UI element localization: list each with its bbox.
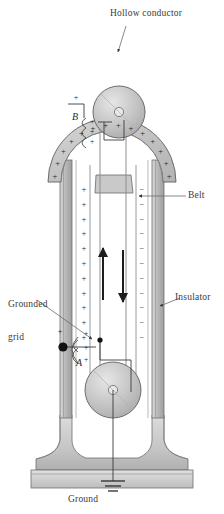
dome-plus: + [61,146,66,156]
belt-plus: + [82,243,87,253]
dome-plus: + [164,158,169,168]
dome-plus: + [167,171,172,181]
belt-minus: − [140,302,145,312]
insulating-column-right [152,160,164,418]
brush-a-plus: + [84,355,88,364]
brush-b-plus: + [90,127,94,136]
dome-plus: + [158,146,163,156]
belt-minus: − [140,258,145,268]
figure-canvas: +++++++++++++++++++++++++−−−−−−−−−−−++++… [0,0,224,514]
dome-plus: + [150,136,155,146]
label-brush-b: B [72,111,78,122]
brush-a-plus: + [84,329,88,338]
dome-plus: + [103,120,108,130]
belt-minus: − [140,288,145,298]
belt-minus: − [140,214,145,224]
label-brush-a: A [76,357,82,368]
brush-b-plus: + [90,117,94,126]
dome-plus: + [69,136,74,146]
dome-plus: + [79,128,84,138]
label-grounded-grid: Grounded grid [8,277,48,365]
belt-plus: + [82,228,87,238]
belt-plus: + [82,184,87,194]
belt-plus: + [82,317,87,327]
belt-minus: − [140,243,145,253]
leader-hollow-conductor [118,26,126,52]
belt-minus: − [140,317,145,327]
van-de-graaff-diagram: +++++++++++++++++++++++++−−−−−−−−−−−++++… [0,0,224,514]
belt-minus: − [140,332,145,342]
upper-pulley [93,86,145,138]
dome-plus: + [52,171,57,181]
grid-contact-dot [97,337,102,342]
dome-plus: + [116,120,121,130]
label-grounded-grid-line1: Grounded [8,299,48,310]
label-hollow-conductor: Hollow conductor [110,8,182,19]
belt-plus: + [82,199,87,209]
stray-plus: + [58,327,63,336]
insulating-column-left [60,160,72,418]
dome-plus: + [55,158,60,168]
belt-minus: − [140,184,145,194]
dome-plus: + [140,128,145,138]
brush-a-plus: + [84,343,88,352]
belt-plus: + [82,214,87,224]
belt [90,110,136,378]
belt-plus: + [82,302,87,312]
base-pedestal [31,415,193,488]
belt-plus: + [82,273,87,283]
collector-plate [95,175,133,193]
belt-plus: + [82,258,87,268]
belt-minus: − [140,199,145,209]
label-belt: Belt [188,190,205,201]
charge-source-dot [58,342,67,351]
belt-minus: − [140,228,145,238]
dome-plus: + [129,123,134,133]
label-grounded-grid-line2: grid [8,332,48,343]
stray-plus: + [74,93,79,102]
belt-plus: + [82,288,87,298]
base-slab [31,470,193,488]
brush-b-plus: + [90,137,94,146]
belt-minus: − [140,273,145,283]
label-ground: Ground [68,494,98,505]
label-insulator: Insulator [175,292,211,303]
